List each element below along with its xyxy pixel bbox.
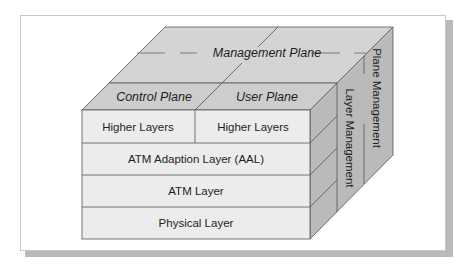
atm-layer-label: ATM Layer [168,185,224,197]
layer-management-label: Layer Management [344,88,356,188]
physical-layer-label: Physical Layer [159,217,234,229]
plane-management-label: Plane Management [371,48,383,149]
management-plane-label: Management Plane [213,46,321,60]
aal-layer-label: ATM Adaption Layer (AAL) [128,153,264,165]
higher-layers-left-label: Higher Layers [102,121,174,133]
user-plane-label: User Plane [236,90,298,104]
higher-layers-right-label: Higher Layers [217,121,289,133]
control-plane-label: Control Plane [116,90,192,104]
atm-cube-diagram: Management Plane Control Plane User Plan… [0,0,471,270]
